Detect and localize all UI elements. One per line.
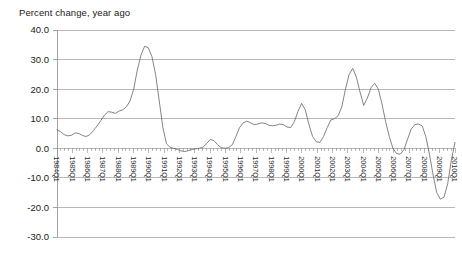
y-axis-tick-label: 40.0 bbox=[31, 24, 50, 35]
chart-container: Percent change, year ago 40.030.020.010.… bbox=[0, 0, 462, 260]
y-axis-tick-label: -30.0 bbox=[27, 231, 49, 242]
x-axis-tick-label: 1990Q1 bbox=[144, 156, 153, 182]
x-axis-tick-label: 2008Q1 bbox=[420, 156, 429, 182]
x-axis-tick-label: 1999Q1 bbox=[282, 156, 291, 182]
x-axis-tick-label: 1994Q1 bbox=[205, 156, 214, 182]
x-axis-tick-label: 1986Q1 bbox=[83, 156, 92, 182]
x-axis-tick-label: 2004Q1 bbox=[359, 156, 368, 182]
y-axis-tick-label: 0.0 bbox=[36, 143, 49, 154]
x-axis-tick-label: 1991Q1 bbox=[160, 156, 169, 182]
x-axis-tick-label: 2007Q1 bbox=[404, 156, 413, 182]
x-axis-tick-label: 1995Q1 bbox=[221, 156, 230, 182]
x-axis-tick-label: 1996Q1 bbox=[236, 156, 245, 182]
x-axis-tick-label: 1997Q1 bbox=[251, 156, 260, 182]
x-axis-tick-label: 2001Q1 bbox=[313, 156, 322, 182]
x-axis-tick-label: 1992Q1 bbox=[175, 156, 184, 182]
x-axis-tick-label: 1988Q1 bbox=[114, 156, 123, 182]
y-axis-tick-label: 10.0 bbox=[31, 113, 50, 124]
y-axis-tick-label: -10.0 bbox=[27, 172, 49, 183]
x-axis-tick-label: 2006Q1 bbox=[389, 156, 398, 182]
x-axis-tick-label: 2003Q1 bbox=[343, 156, 352, 182]
x-axis-tick-label: 1987Q1 bbox=[98, 156, 107, 182]
x-axis-tick-label: 1989Q1 bbox=[129, 156, 138, 182]
x-axis-tick-label: 1998Q1 bbox=[267, 156, 276, 182]
line-chart-plot: 40.030.020.010.00.0-10.0-20.0-30.0 1984Q… bbox=[0, 0, 462, 260]
x-axis-tick-label: 1993Q1 bbox=[190, 156, 199, 182]
y-axis-tick-label: -20.0 bbox=[27, 202, 49, 213]
x-axis-tick-label: 1985Q1 bbox=[68, 156, 77, 182]
y-axis-tick-label: 30.0 bbox=[31, 54, 50, 65]
y-axis-tick-labels: 40.030.020.010.00.0-10.0-20.0-30.0 bbox=[27, 24, 49, 242]
x-axis-tick-label: 2009Q1 bbox=[435, 156, 444, 182]
x-axis-tick-marks bbox=[57, 148, 455, 153]
y-axis-tick-marks bbox=[53, 30, 57, 237]
x-axis-tick-label: 2000Q1 bbox=[297, 156, 306, 182]
gridlines bbox=[57, 30, 455, 237]
x-axis-tick-label: 2002Q1 bbox=[328, 156, 337, 182]
x-axis-tick-label: 1984Q1 bbox=[52, 156, 61, 182]
y-axis-tick-label: 20.0 bbox=[31, 84, 50, 95]
x-axis-tick-label: 2005Q1 bbox=[374, 156, 383, 182]
